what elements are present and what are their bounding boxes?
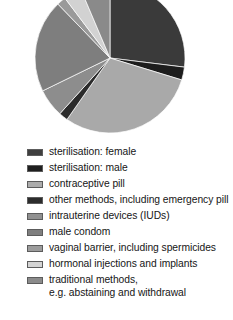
pie-chart-figure <box>0 0 233 143</box>
legend-item-label: sterilisation: female <box>49 145 136 158</box>
legend-swatch-icon <box>27 149 43 156</box>
legend-item: male condom <box>0 225 233 238</box>
legend-swatch-icon <box>27 245 43 252</box>
legend-item: intrauterine devices (IUDs) <box>0 209 233 222</box>
legend-item-label: male condom <box>49 225 110 238</box>
legend-item-label: traditional methods, e.g. abstaining and… <box>49 273 186 299</box>
legend-item: other methods, including emergency pill <box>0 193 233 206</box>
legend-item: hormonal injections and implants <box>0 257 233 270</box>
pie-slice <box>110 0 185 67</box>
legend-item-label: other methods, including emergency pill <box>49 193 229 206</box>
legend-swatch-icon <box>27 165 43 172</box>
legend-item: sterilisation: male <box>0 161 233 174</box>
legend-swatch-icon <box>27 277 43 284</box>
legend-item-label: hormonal injections and implants <box>49 257 197 270</box>
legend-item-label: intrauterine devices (IUDs) <box>49 209 170 222</box>
legend-swatch-icon <box>27 261 43 268</box>
legend-swatch-icon <box>27 229 43 236</box>
pie-chart-svg <box>0 0 233 143</box>
legend-item: contraceptive pill <box>0 177 233 190</box>
legend-swatch-icon <box>27 213 43 220</box>
legend-item-label: contraceptive pill <box>49 177 125 190</box>
legend-swatch-icon <box>27 197 43 204</box>
legend-item: vaginal barrier, including spermicides <box>0 241 233 254</box>
legend-item: traditional methods, e.g. abstaining and… <box>0 273 233 299</box>
legend-item-label: sterilisation: male <box>49 161 128 174</box>
legend-item-label: vaginal barrier, including spermicides <box>49 241 216 254</box>
chart-legend: sterilisation: femalesterilisation: male… <box>0 145 233 302</box>
legend-item: sterilisation: female <box>0 145 233 158</box>
legend-swatch-icon <box>27 181 43 188</box>
